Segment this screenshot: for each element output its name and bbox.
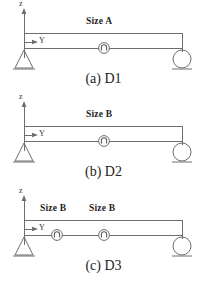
y-axis-arrowhead (32, 133, 38, 137)
node-marker-right (99, 230, 110, 241)
y-axis-label-d2: Y (39, 130, 45, 138)
roller-support-circle (173, 50, 191, 68)
beam-diagram-panel-d1: z Y Size A (a) D1 (0, 0, 207, 95)
size-label-d1-0: Size A (86, 17, 112, 27)
z-axis-label-d2: z (19, 93, 23, 101)
node-marker-left (52, 230, 63, 241)
z-axis-arrowhead (22, 101, 27, 107)
size-label-d3-0: Size B (40, 204, 66, 214)
panel-caption-d2: (b) D2 (0, 165, 207, 179)
size-label-d2-0: Size B (86, 110, 112, 120)
beam-diagram-panel-d2: z Y Size B (b) D2 (0, 93, 207, 188)
node-marker-center (99, 43, 110, 54)
z-axis-label-d3: z (19, 187, 23, 195)
y-axis-arrowhead (32, 227, 38, 231)
size-label-d3-1: Size B (89, 204, 115, 214)
y-axis-label-d3: Y (39, 224, 45, 232)
z-axis-arrowhead (22, 195, 27, 201)
z-axis-arrowhead (22, 8, 27, 14)
y-axis-label-d1: Y (39, 37, 45, 45)
beam-configuration-figure: z Y Size A (a) D1 z Y S (0, 0, 207, 285)
panel-caption-d3: (c) D3 (0, 259, 207, 273)
panel-caption-d1: (a) D1 (0, 72, 207, 86)
z-axis-label-d1: z (19, 0, 23, 8)
roller-support-circle (173, 143, 191, 161)
y-axis-arrowhead (32, 40, 38, 44)
node-marker-center (99, 136, 110, 147)
roller-support-circle (173, 237, 191, 255)
beam-diagram-panel-d3: z Y Size B Size B (c) D3 (0, 187, 207, 282)
